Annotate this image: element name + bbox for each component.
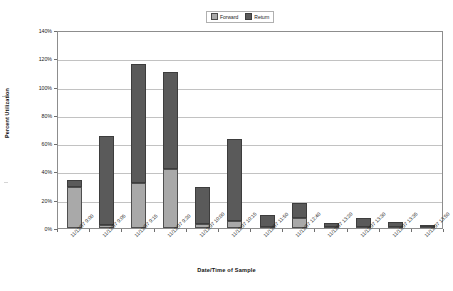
y-tick-label: 140% xyxy=(22,28,52,34)
bar-segment-return[interactable] xyxy=(292,203,307,219)
bar-group[interactable] xyxy=(420,30,435,228)
x-tick-mark xyxy=(411,229,412,232)
bar-group[interactable] xyxy=(356,30,371,228)
bar-group[interactable] xyxy=(324,30,339,228)
y-tick-label: 0% xyxy=(22,226,52,232)
bar-group[interactable] xyxy=(99,30,114,228)
x-tick-mark xyxy=(347,229,348,232)
bar-segment-return[interactable] xyxy=(131,64,146,183)
y-tick-label: 20% xyxy=(22,198,52,204)
bar-group[interactable] xyxy=(195,30,210,228)
legend-entry-return: Return xyxy=(245,13,269,20)
x-tick-mark xyxy=(282,229,283,232)
bar-segment-return[interactable] xyxy=(67,180,82,187)
x-tick-mark xyxy=(57,229,58,232)
bars-layer xyxy=(58,32,442,228)
legend-entry-forward: Forward xyxy=(211,13,238,20)
bar-group[interactable] xyxy=(227,30,242,228)
x-tick-mark xyxy=(186,229,187,232)
bar-segment-return[interactable] xyxy=(99,136,114,225)
x-tick-mark xyxy=(379,229,380,232)
x-tick-mark xyxy=(121,229,122,232)
x-tick-mark xyxy=(443,229,444,232)
x-tick-mark xyxy=(218,229,219,232)
chart-legend: Forward Return xyxy=(206,11,274,23)
x-tick-mark xyxy=(314,229,315,232)
bar-group[interactable] xyxy=(292,30,307,228)
bar-segment-return[interactable] xyxy=(227,139,242,221)
bar-group[interactable] xyxy=(131,30,146,228)
x-axis-title: Date/Time of Sample xyxy=(0,267,453,273)
plot-area xyxy=(57,31,443,229)
y-tick-label: 60% xyxy=(22,141,52,147)
bar-segment-forward[interactable] xyxy=(131,183,146,228)
bar-group[interactable] xyxy=(163,30,178,228)
bar-group[interactable] xyxy=(67,30,82,228)
bar-segment-return[interactable] xyxy=(163,72,178,168)
x-tick-mark xyxy=(154,229,155,232)
x-tick-mark xyxy=(250,229,251,232)
y-tick-label: 80% xyxy=(22,113,52,119)
bar-segment-forward[interactable] xyxy=(163,169,178,228)
x-tick-mark xyxy=(89,229,90,232)
scan-artifact-mark xyxy=(4,182,8,183)
y-tick-label: 120% xyxy=(22,56,52,62)
legend-swatch-return-icon xyxy=(245,13,252,20)
legend-label-return: Return xyxy=(254,14,269,20)
y-tick-label: 100% xyxy=(22,85,52,91)
bar-group[interactable] xyxy=(260,30,275,228)
legend-label-forward: Forward xyxy=(220,14,238,20)
y-tick-label: 40% xyxy=(22,169,52,175)
legend-swatch-forward-icon xyxy=(211,13,218,20)
bar-group[interactable] xyxy=(388,30,403,228)
y-axis-title: Percent Utilization xyxy=(4,63,10,163)
bar-segment-return[interactable] xyxy=(195,187,210,224)
